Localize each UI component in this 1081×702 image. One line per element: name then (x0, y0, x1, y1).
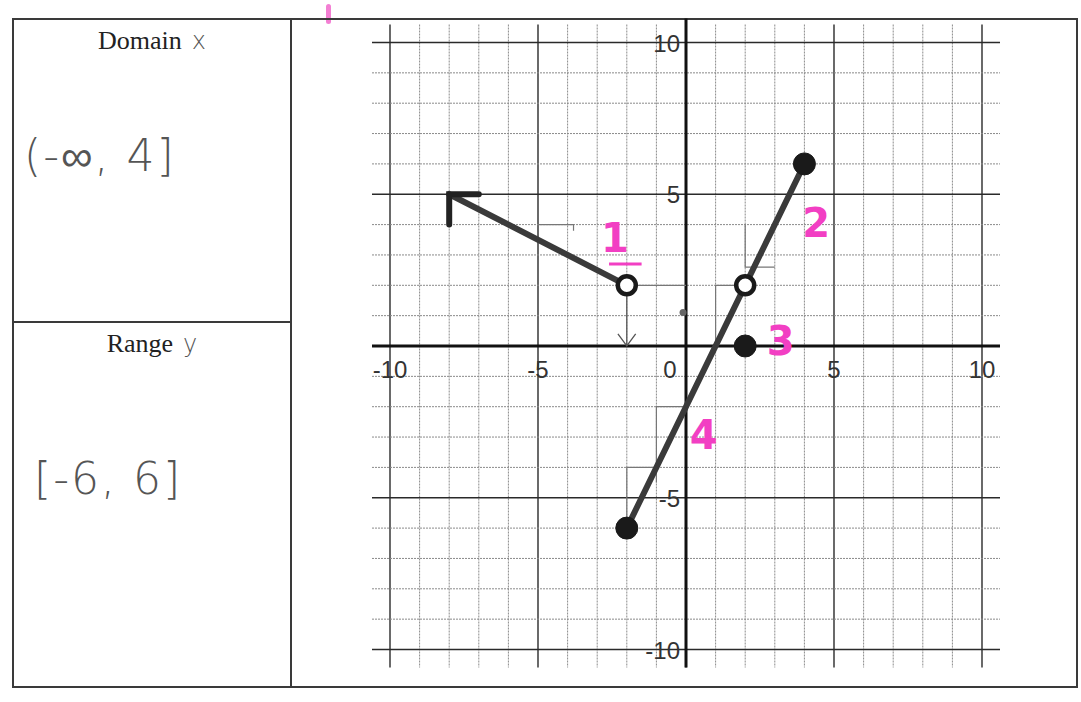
range-heading: Rangey (14, 329, 290, 359)
open-point (736, 276, 754, 294)
slope-guide-1 (538, 225, 574, 231)
y-tick-label: 10 (653, 30, 680, 57)
y-tick-label: 5 (667, 181, 680, 208)
axes (372, 19, 1000, 668)
range-cell: Rangey [-6, 6] (14, 323, 290, 686)
range-answer: [-6, 6] (34, 453, 182, 504)
open-point (618, 276, 636, 294)
x-tick-label: 5 (827, 356, 840, 383)
domain-cell: Domainx (-∞, 4] (14, 20, 290, 323)
closed-point (793, 153, 815, 175)
closed-point (734, 335, 756, 357)
x-tick-label: -10 (373, 356, 408, 383)
coordinate-graph: -10-50510105-5-10 1234 (290, 18, 1076, 686)
y-tick-label: -5 (659, 485, 680, 512)
domain-heading: Domainx (14, 26, 290, 56)
x-tick-label: -5 (527, 356, 548, 383)
domain-answer: (-∞, 4] (24, 130, 176, 181)
x-tick-label: 0 (663, 356, 676, 383)
pink-label: 4 (690, 412, 718, 458)
range-variable: y (183, 330, 197, 358)
pencil-dot (680, 309, 687, 316)
domain-variable: x (192, 27, 206, 55)
pink-label: 3 (767, 318, 795, 364)
pink-label: 1 (601, 215, 629, 261)
y-tick-label: -10 (645, 637, 680, 664)
range-label: Range (107, 329, 173, 358)
pink-label: 2 (802, 200, 830, 246)
domain-range-column: Domainx (-∞, 4] Rangey [-6, 6] (14, 20, 292, 686)
domain-label: Domain (98, 26, 182, 55)
closed-point (616, 517, 638, 539)
x-tick-label: 10 (969, 356, 996, 383)
